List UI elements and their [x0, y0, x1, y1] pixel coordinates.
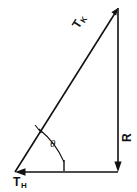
label-th-symbol: T	[13, 175, 21, 189]
vector-tk-shaft	[15, 14, 115, 173]
vector-r-arrowhead	[114, 162, 121, 173]
label-theta: θ	[50, 138, 56, 149]
vector-tk-arrowhead	[111, 8, 118, 16]
vector-tk	[15, 8, 118, 172]
vector-th	[15, 168, 118, 175]
label-th-subscript: H	[21, 181, 27, 190]
vector-triangle-figure: TK R TH θ	[0, 0, 137, 192]
label-r-symbol: R	[120, 133, 134, 142]
vector-r	[114, 8, 121, 172]
label-r: R	[121, 133, 133, 142]
vector-triangle-drawing	[0, 0, 137, 192]
angle-arc-hypotenuse-tick	[35, 125, 42, 133]
label-th: TH	[13, 176, 27, 188]
